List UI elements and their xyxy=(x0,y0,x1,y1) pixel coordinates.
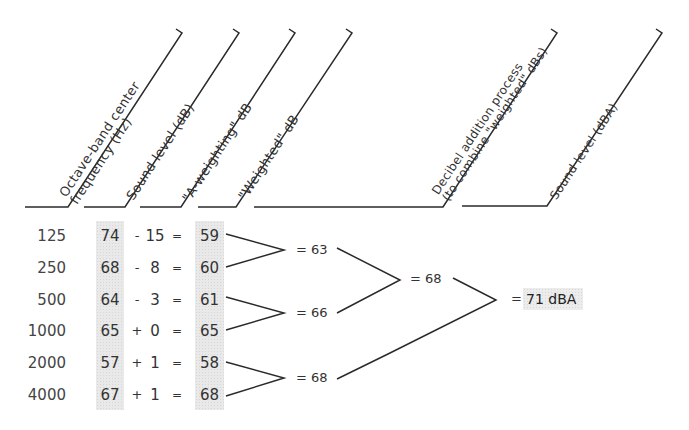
frequency-value: 1000 xyxy=(16,322,66,340)
a-weighting-value: 3 xyxy=(144,291,166,309)
weighted-value: 65 xyxy=(195,322,224,340)
bracket-pair-3 xyxy=(226,362,284,396)
equals-sign: = xyxy=(171,354,183,372)
a-weighting-value: 0 xyxy=(144,322,166,340)
operator: - xyxy=(131,259,143,277)
weighted-value: 60 xyxy=(195,259,224,277)
sound-level-value: 65 xyxy=(96,322,124,340)
equals-sign: = xyxy=(171,322,183,340)
sum-level1-pair1: = 63 xyxy=(296,242,328,258)
sound-level-value: 67 xyxy=(96,386,124,404)
weighted-value: 68 xyxy=(195,386,224,404)
frequency-value: 125 xyxy=(16,227,66,245)
sum-level1-pair2: = 66 xyxy=(296,305,328,321)
weighted-value: 61 xyxy=(195,291,224,309)
equals-sign: = xyxy=(171,291,183,309)
sum-level1-pair3: = 68 xyxy=(296,370,328,386)
equals-sign: = xyxy=(171,227,183,245)
sum-level2: = 68 xyxy=(410,271,442,287)
sound-level-value: 64 xyxy=(96,291,124,309)
sound-level-value: 74 xyxy=(96,227,124,245)
operator: + xyxy=(131,322,143,340)
weighted-value: 59 xyxy=(195,227,224,245)
frequency-value: 2000 xyxy=(16,354,66,372)
result-equals-sign: = xyxy=(511,291,522,307)
a-weighting-value: 1 xyxy=(144,354,166,372)
sound-level-column-shade xyxy=(96,221,124,410)
operator: - xyxy=(131,291,143,309)
header-bracket-weighted xyxy=(198,29,352,207)
equals-sign: = xyxy=(171,259,183,277)
operator: + xyxy=(131,354,143,372)
operator: - xyxy=(131,227,143,245)
frequency-value: 250 xyxy=(16,259,66,277)
a-weighting-value: 15 xyxy=(144,227,166,245)
sound-level-value: 68 xyxy=(96,259,124,277)
operator: + xyxy=(131,386,143,404)
frequency-value: 500 xyxy=(16,291,66,309)
frequency-value: 4000 xyxy=(16,386,66,404)
bracket-level-2 xyxy=(337,248,400,313)
header-bracket-a-weighting xyxy=(140,29,295,207)
bracket-level-3 xyxy=(337,278,496,379)
bracket-pair-2 xyxy=(226,297,284,330)
a-weighting-value: 8 xyxy=(144,259,166,277)
weighted-column-shade xyxy=(195,221,224,410)
sound-level-value: 57 xyxy=(96,354,124,372)
result-dba-value: 71 dBA xyxy=(526,290,576,308)
weighted-value: 58 xyxy=(195,354,224,372)
bracket-pair-1 xyxy=(226,234,284,267)
equals-sign: = xyxy=(171,386,183,404)
a-weighting-value: 1 xyxy=(144,386,166,404)
